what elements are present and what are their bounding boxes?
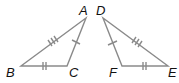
vertex-label-c: C [69, 65, 79, 80]
vertex-label-e: E [168, 65, 177, 80]
vertex-label-d: D [96, 3, 105, 18]
triangle-abc [21, 18, 86, 70]
congruent-triangles-diagram: A D B C F E [0, 0, 179, 83]
triangle-def [103, 18, 168, 70]
vertex-label-b: B [6, 65, 15, 80]
vertex-label-a: A [78, 3, 88, 18]
vertex-label-f: F [109, 65, 118, 80]
triangle-def-outline [103, 18, 168, 66]
